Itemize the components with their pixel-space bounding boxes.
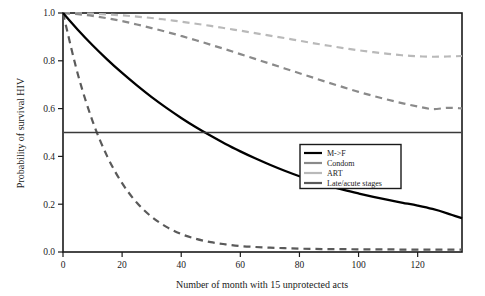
- legend-label-0: M->F: [327, 149, 346, 158]
- y-tick-label: 0.4: [43, 152, 55, 162]
- y-tick-label: 0.8: [43, 56, 55, 66]
- series-line-late-acute-stages: [63, 13, 462, 250]
- x-axis-tick-labels: 020406080100120: [61, 260, 425, 270]
- x-tick-label: 100: [351, 260, 366, 270]
- y-tick-label: 1.0: [43, 8, 55, 18]
- x-tick-label: 60: [236, 260, 246, 270]
- series-line-art: [63, 13, 462, 57]
- x-tick-label: 40: [176, 260, 186, 270]
- y-axis-tick-labels: 0.00.20.40.60.81.0: [43, 8, 55, 257]
- x-tick-label: 80: [295, 260, 305, 270]
- legend: M->FCondomARTLate/acute stages: [300, 145, 401, 189]
- x-tick-label: 0: [61, 260, 66, 270]
- figure-container: 0.00.20.40.60.81.0 020406080100120 Proba…: [0, 0, 485, 296]
- y-tick-label: 0.0: [43, 247, 55, 257]
- y-axis-title: Probability of survival HIV: [15, 77, 26, 188]
- legend-label-2: ART: [327, 169, 343, 178]
- series-line-condom: [63, 13, 462, 109]
- chart-canvas: 0.00.20.40.60.81.0 020406080100120 Proba…: [0, 0, 485, 296]
- legend-label-1: Condom: [327, 159, 355, 168]
- y-tick-label: 0.6: [43, 104, 55, 114]
- series-line-m-f: [63, 13, 462, 218]
- x-axis-title: Number of month with 15 unprotected acts: [176, 279, 348, 290]
- x-tick-label: 20: [117, 260, 127, 270]
- x-tick-label: 120: [411, 260, 426, 270]
- series-group: [63, 13, 462, 250]
- y-tick-label: 0.2: [43, 200, 55, 210]
- legend-label-3: Late/acute stages: [327, 179, 382, 188]
